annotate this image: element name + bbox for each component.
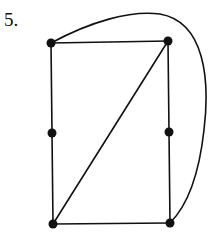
edge-top bbox=[51, 41, 168, 43]
edge-right-lower bbox=[169, 132, 170, 223]
vertex-bottom-right bbox=[166, 219, 175, 228]
vertex-top-right bbox=[164, 37, 173, 46]
edge-left-lower bbox=[52, 133, 53, 224]
edge-left-upper bbox=[51, 43, 52, 133]
vertex-mid-right bbox=[165, 128, 174, 137]
edge-bottom bbox=[53, 223, 170, 224]
vertex-mid-left bbox=[48, 129, 57, 138]
vertex-bottom-left bbox=[49, 220, 58, 229]
graph-diagram bbox=[0, 0, 208, 233]
edge-diagonal bbox=[53, 41, 168, 224]
edge-right-upper bbox=[168, 41, 169, 132]
vertex-top-left bbox=[47, 39, 56, 48]
